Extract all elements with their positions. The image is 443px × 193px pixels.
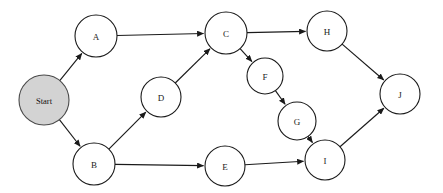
- edge-B-to-E: [115, 164, 204, 165]
- node-label-J: J: [398, 90, 402, 100]
- edge-C-to-H: [247, 31, 306, 32]
- edge-A-to-C: [117, 34, 204, 36]
- edge-H-to-J: [342, 44, 384, 80]
- node-A[interactable]: A: [75, 15, 117, 57]
- node-H[interactable]: H: [307, 11, 347, 51]
- edge-D-to-C: [175, 49, 210, 83]
- node-C[interactable]: C: [205, 12, 247, 54]
- graph-canvas: StartABCDEFGHIJ: [0, 0, 443, 193]
- node-label-E: E: [222, 162, 228, 172]
- edge-E-to-I: [245, 161, 304, 165]
- node-label-A: A: [93, 32, 100, 42]
- node-I[interactable]: I: [305, 140, 345, 180]
- node-E[interactable]: E: [205, 146, 245, 186]
- edge-start-to-B: [59, 120, 80, 147]
- node-G[interactable]: G: [278, 102, 316, 140]
- node-B[interactable]: B: [73, 143, 115, 185]
- edge-F-to-G: [275, 91, 285, 105]
- node-label-B: B: [91, 160, 97, 170]
- edge-I-to-J: [340, 108, 384, 147]
- nodes-layer: StartABCDEFGHIJ: [19, 11, 420, 186]
- node-label-F: F: [262, 72, 267, 82]
- node-F[interactable]: F: [247, 58, 283, 94]
- node-D[interactable]: D: [141, 77, 181, 117]
- edge-B-to-D: [109, 112, 146, 149]
- edge-C-to-F: [240, 49, 252, 62]
- node-J[interactable]: J: [380, 74, 420, 114]
- node-label-C: C: [223, 29, 229, 39]
- graph-diagram: StartABCDEFGHIJ: [0, 0, 443, 193]
- node-label-I: I: [324, 156, 327, 166]
- node-start[interactable]: Start: [19, 75, 69, 125]
- edge-start-to-A: [60, 53, 82, 80]
- node-label-H: H: [324, 27, 331, 37]
- edge-G-to-I: [308, 136, 312, 142]
- node-label-G: G: [294, 117, 301, 127]
- node-label-start: Start: [36, 96, 53, 106]
- node-label-D: D: [158, 93, 165, 103]
